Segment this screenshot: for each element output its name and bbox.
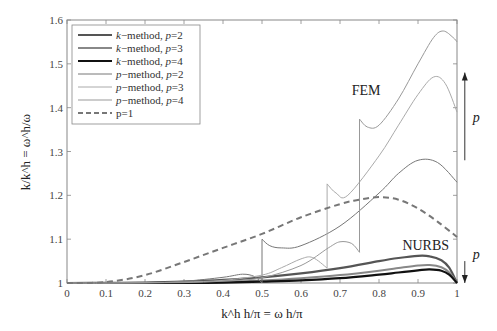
x-tick-label: 0.5 [255,287,269,299]
series-line-4 [67,159,457,283]
y-tick-label: 1.1 [49,233,63,245]
y-tick-label: 1 [58,277,64,289]
x-tick-label: 0.2 [138,287,152,299]
legend-item-label: p−method, p=3 [115,81,184,93]
x-tick-label: 0.9 [411,287,425,299]
x-tick-label: 0 [64,287,70,299]
legend-item-label: k−method, p=4 [116,55,183,67]
legend-item-label: k−method, p=3 [116,42,183,54]
legend-item-label: p−method, p=4 [115,94,184,106]
y-tick-label: 1.5 [49,58,63,70]
legend-item-label: p−method, p=2 [115,68,183,80]
y-tick-label: 1.6 [49,14,63,26]
y-axis-label: k/k^h = ω^h/ω [18,113,33,190]
x-tick-label: 1 [454,287,460,299]
x-tick-label: 0.3 [177,287,191,299]
x-tick-label: 0.7 [333,287,347,299]
nurbs-label: NURBS [402,238,449,253]
x-axis-label: k^h h/π = ω h/π [221,306,303,321]
legend-item-label: p=1 [116,107,133,119]
x-tick-label: 0.4 [216,287,230,299]
x-tick-label: 0.8 [372,287,386,299]
chart: 00.10.20.30.40.50.60.70.80.9111.11.21.31… [0,0,497,331]
y-tick-label: 1.4 [49,102,63,114]
legend-item-label: k−method, p=2 [116,29,183,41]
arrowhead-icon [462,73,468,81]
annotations: FEMNURBSpp [352,73,480,283]
legend: k−method, p=2k−method, p=3k−method, p=4p… [72,25,200,124]
y-tick-label: 1.3 [49,146,63,158]
p-arrow-label: p [472,110,480,125]
y-tick-label: 1.2 [49,189,63,201]
fem-label: FEM [352,83,381,98]
x-tick-label: 0.1 [99,287,113,299]
arrowhead-icon [462,275,468,283]
p-arrow-label: p [472,247,480,262]
x-tick-label: 0.6 [294,287,308,299]
